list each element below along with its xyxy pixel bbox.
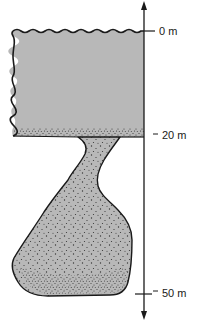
axis-arrow-down-icon bbox=[141, 311, 147, 320]
depth-label-20m: 20 m bbox=[162, 130, 186, 141]
axis-arrow-up-icon bbox=[141, 1, 147, 10]
upper-layer-stipple-band bbox=[14, 128, 144, 137]
upper-layer-fill bbox=[8, 30, 144, 138]
depth-label-50m: 50 m bbox=[162, 288, 186, 299]
depth-diagram bbox=[0, 0, 201, 326]
depth-label-0m: 0 m bbox=[159, 26, 177, 37]
